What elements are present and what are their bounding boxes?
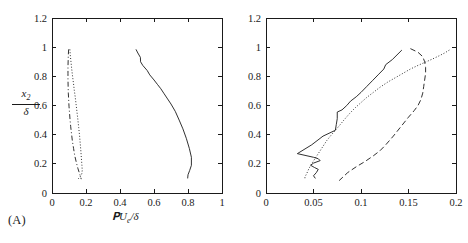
y-tick-label: 0.2: [248, 158, 261, 169]
x-tick-label: 0.05: [304, 197, 322, 208]
y-tick-label: 0.8: [34, 71, 47, 82]
panel-b-plot: 00.050.10.150.200.20.40.60.811.2: [234, 0, 468, 243]
y-tick-label: 0.8: [248, 71, 261, 82]
y-axis-denominator: δ: [12, 105, 40, 118]
y-tick-label: 1: [256, 42, 261, 53]
x-tick-label: 0.2: [79, 197, 92, 208]
y-tick-label: 0.2: [34, 158, 47, 169]
panel-a-tag: (A): [8, 213, 26, 228]
x-tick-label: 1: [219, 197, 224, 208]
series-line-dashdot: [68, 49, 81, 179]
x-tick-label: 0.15: [399, 197, 417, 208]
y-axis-numerator: x2: [12, 88, 40, 105]
panel-a-y-axis-label: x2 δ: [12, 88, 40, 117]
x-axis-label-text: 𝐏Ue/δ: [112, 210, 139, 222]
x-tick-label: 0: [49, 197, 54, 208]
series-line-solid: [297, 50, 402, 178]
series-line-dotted: [305, 50, 449, 180]
panel-a: 00.20.40.60.8100.20.40.60.811.2 x2 δ 𝐏Ue…: [0, 0, 234, 243]
x-tick-label: 0.2: [449, 197, 462, 208]
panel-b: 00.050.10.150.200.20.40.60.811.2 Li3/δ (…: [234, 0, 468, 243]
x-tick-label: 0.1: [354, 197, 367, 208]
y-tick-label: 1.2: [34, 13, 47, 24]
x-tick-label: 0: [263, 197, 268, 208]
y-tick-label: 0.4: [34, 129, 48, 140]
y-tick-label: 0.6: [248, 100, 261, 111]
x-tick-label: 0.4: [113, 197, 127, 208]
panel-a-plot: 00.20.40.60.8100.20.40.60.811.2: [0, 0, 234, 243]
panel-a-x-axis-label: 𝐏Ue/δ: [112, 210, 139, 225]
x-tick-label: 0.6: [147, 197, 160, 208]
series-line-solid: [136, 49, 191, 178]
y-tick-label: 0: [256, 188, 261, 199]
y-tick-label: 0: [42, 188, 47, 199]
y-tick-label: 1.2: [248, 13, 261, 24]
y-tick-label: 0.4: [248, 129, 262, 140]
figure-container: 00.20.40.60.8100.20.40.60.811.2 x2 δ 𝐏Ue…: [0, 0, 468, 243]
y-tick-label: 1: [42, 42, 47, 53]
x-tick-label: 0.8: [181, 197, 194, 208]
